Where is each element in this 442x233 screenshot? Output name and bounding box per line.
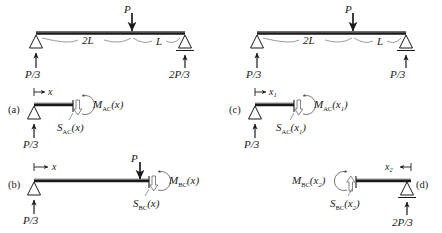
span-right-label: L	[155, 35, 162, 47]
load-label: P	[130, 152, 138, 164]
support-roller-right	[400, 35, 413, 48]
support-pin	[249, 106, 262, 119]
support-roller-right	[179, 35, 192, 48]
panel-top-left: P 2L L P/3 2P/3	[24, 3, 194, 80]
shear-arrow	[74, 100, 82, 115]
reaction-right-label: P/3	[389, 68, 406, 80]
shear-arrow	[347, 176, 355, 191]
moment-label: MAC(x)	[92, 98, 124, 112]
shear-arrow	[295, 100, 303, 115]
dimension-arc-left-a	[42, 38, 78, 42]
support-pin	[28, 106, 41, 119]
dimension-arc-right-b	[387, 38, 401, 42]
shear-label: SBC(x)	[133, 197, 160, 211]
dim-label-x2: x2	[384, 161, 393, 173]
moment-arc	[334, 172, 347, 191]
moment-label: MAC(x1)	[313, 98, 348, 112]
panel-top-right: P 2L L P/3 P/3 2P/3	[245, 3, 415, 80]
shear-leader-line	[290, 113, 294, 120]
dimension-arc-left-a	[263, 38, 299, 42]
dim-label-x1: x1	[268, 86, 277, 98]
shear-leader-line	[145, 189, 149, 196]
panel-d: (d) x2 2P/3 MBC(x2) SBC(x2)	[291, 161, 429, 228]
dimension-arc-left-b	[325, 38, 352, 42]
reaction-label: P/3	[22, 214, 39, 226]
reaction-left-label: P/3	[24, 68, 41, 80]
shear-label: SAC(x1)	[276, 121, 306, 135]
shear-label: SAC(x)	[57, 121, 84, 135]
panel-label-d: (d)	[416, 179, 429, 191]
dimension-arc-right-a	[133, 38, 152, 42]
panel-label-b: (b)	[8, 179, 21, 191]
moment-label: MBC(x2)	[291, 174, 326, 188]
support-pin	[28, 182, 41, 195]
support-roller	[401, 182, 414, 195]
panel-a: (a) x P/3 MAC(x) SAC(x)	[8, 86, 124, 150]
dimension-arc-right-b	[166, 38, 180, 42]
diagram-canvas: P 2L L P/3 2P/3 P 2L L P/3	[0, 0, 442, 233]
dimension-arc-left-b	[104, 38, 131, 42]
reaction-label: P/3	[22, 138, 39, 150]
reaction-label: 2P/3	[392, 216, 413, 228]
dimension-arc-right-a	[354, 38, 373, 42]
shear-arrow	[150, 176, 158, 191]
span-right-label: L	[376, 35, 383, 47]
support-pin-left	[251, 35, 264, 48]
dim-label-x: x	[47, 86, 53, 97]
load-label: P	[344, 3, 352, 15]
span-left-label: 2L	[303, 34, 315, 46]
panel-b: (b) x P P/3 MBC(x) SBC(x)	[8, 152, 199, 226]
span-left-label: 2L	[82, 34, 94, 46]
reaction-left-label: P/3	[245, 68, 262, 80]
shear-label: SBC(x2)	[330, 197, 360, 211]
dim-label-x: x	[51, 161, 57, 172]
beam-diagram-figure: P 2L L P/3 2P/3 P 2L L P/3	[0, 0, 442, 233]
reaction-right-label: 2P/3	[169, 68, 190, 80]
load-label: P	[123, 3, 131, 15]
moment-label: MBC(x)	[168, 174, 199, 188]
reaction-label: P/3	[243, 138, 260, 150]
shear-leader-line	[69, 113, 73, 120]
support-pin-left	[30, 35, 43, 48]
panel-label-a: (a)	[8, 104, 20, 116]
panel-label-c: (c)	[229, 104, 241, 116]
panel-c: (c) x1 P/3 MAC(x1) SAC(x1)	[229, 86, 348, 150]
